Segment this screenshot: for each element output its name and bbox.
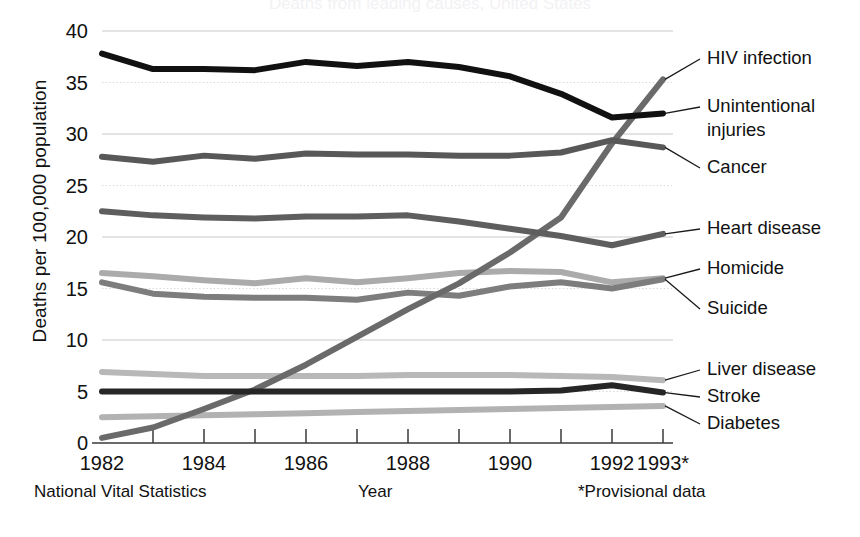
x-tick-label: 1992 xyxy=(590,452,635,474)
series-label: Diabetes xyxy=(707,412,780,433)
x-tick-label: 1990 xyxy=(488,452,533,474)
x-tick-label: 1982 xyxy=(80,452,125,474)
y-tick-label: 0 xyxy=(77,432,88,454)
y-tick-label: 5 xyxy=(77,381,88,403)
leader-line xyxy=(665,269,700,278)
series-label: injuries xyxy=(707,119,766,140)
series-label: Suicide xyxy=(707,297,768,318)
y-tick-label: 15 xyxy=(66,278,88,300)
x-tick-label: 1988 xyxy=(386,452,431,474)
series-line xyxy=(102,54,663,118)
series-labels-group: UnintentionalinjuriesHIV infectionCancer… xyxy=(707,47,821,433)
series-label: Cancer xyxy=(707,156,767,177)
leader-line xyxy=(665,229,700,234)
line-chart-plot: 0510152025303540 19821984198619881990199… xyxy=(0,0,860,537)
leader-lines-group xyxy=(665,59,700,424)
leader-line xyxy=(665,107,700,113)
y-axis-ticks-group: 0510152025303540 xyxy=(66,20,88,454)
series-line xyxy=(102,79,663,437)
series-label: Unintentional xyxy=(707,95,815,116)
series-line xyxy=(102,140,663,162)
x-axis-group: 1982198419861988199019921993* xyxy=(80,429,690,474)
series-label: Liver disease xyxy=(707,358,816,379)
leader-line xyxy=(665,59,700,79)
x-tick-label: 1993* xyxy=(637,452,689,474)
series-line xyxy=(102,385,663,392)
leader-line xyxy=(665,147,700,168)
y-tick-label: 25 xyxy=(66,175,88,197)
y-tick-label: 10 xyxy=(66,329,88,351)
series-line xyxy=(102,372,663,380)
y-tick-label: 20 xyxy=(66,226,88,248)
leader-line xyxy=(665,406,700,424)
series-line xyxy=(102,211,663,245)
x-axis-label: Year xyxy=(358,482,393,501)
y-tick-label: 40 xyxy=(66,20,88,42)
source-note: National Vital Statistics xyxy=(34,482,207,501)
series-label: Stroke xyxy=(707,385,760,406)
data-series-group xyxy=(102,54,663,438)
leader-line xyxy=(665,279,700,309)
provisional-note: *Provisional data xyxy=(578,482,706,501)
y-tick-label: 30 xyxy=(66,123,88,145)
x-tick-label: 1984 xyxy=(182,452,227,474)
series-label: Homicide xyxy=(707,257,784,278)
series-label: Heart disease xyxy=(707,217,821,238)
leader-line xyxy=(665,393,700,397)
y-tick-label: 35 xyxy=(66,72,88,94)
chart-container: Deaths from leading causes, United State… xyxy=(0,0,860,537)
series-label: HIV infection xyxy=(707,47,812,68)
x-tick-label: 1986 xyxy=(284,452,329,474)
leader-line xyxy=(665,370,700,380)
gridlines-group xyxy=(102,31,673,392)
